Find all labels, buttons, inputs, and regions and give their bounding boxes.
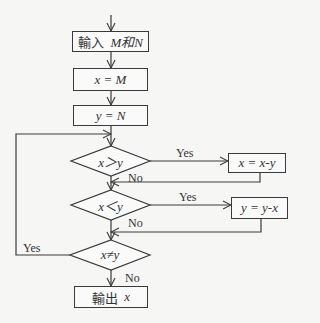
assign-x-box: x = M [73, 68, 148, 91]
label-no-1: No [128, 171, 143, 185]
assign-y-box: y = N [73, 105, 148, 126]
input-box: 輸入 M和N [72, 31, 149, 52]
input-prefix: 輸入 [78, 32, 104, 51]
sub-x-box: x = x-y [228, 153, 286, 173]
input-expr: M和N [111, 32, 144, 51]
label-no-2: No [128, 216, 143, 230]
label-yes-1: Yes [176, 146, 193, 160]
sub-y-box: y = y-x [231, 197, 288, 219]
output-expr: x [124, 289, 130, 305]
label-no-3: No [125, 271, 140, 285]
output-prefix: 輸出 [92, 288, 118, 307]
label-yes-3: Yes [23, 241, 40, 255]
label-yes-2: Yes [179, 190, 196, 204]
output-box: 輸出 x [74, 286, 148, 308]
cond3-text: x≠y [70, 240, 150, 270]
